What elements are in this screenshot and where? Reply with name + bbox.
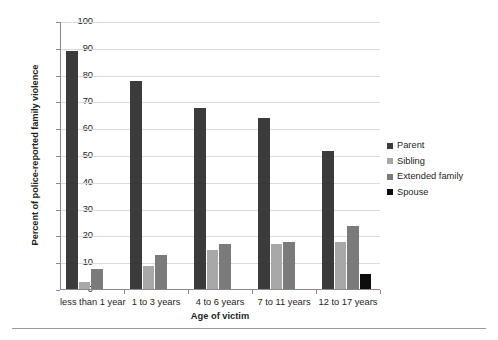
y-tick-mark: [56, 290, 60, 291]
legend-swatch-icon: [387, 174, 393, 180]
legend-item[interactable]: Extended family: [387, 169, 463, 185]
legend-label: Sibling: [397, 157, 425, 166]
legend-item[interactable]: Parent: [387, 138, 463, 154]
x-tick-label: 7 to 11 years: [252, 297, 316, 307]
x-tick-mark: [252, 290, 253, 294]
bottom-divider: [12, 328, 486, 329]
x-tick-mark: [124, 290, 125, 294]
plot-area: [60, 22, 380, 290]
legend-label: Spouse: [397, 188, 429, 197]
x-tick-mark: [380, 290, 381, 294]
x-tick-mark: [316, 290, 317, 294]
bar-chart-figure: Percent of police-reported family violen…: [0, 0, 498, 340]
x-tick-label: 1 to 3 years: [124, 297, 188, 307]
legend-swatch-icon: [387, 143, 393, 149]
legend-label: Parent: [397, 141, 424, 150]
x-tick-mark: [188, 290, 189, 294]
x-tick-label: 4 to 6 years: [188, 297, 252, 307]
legend-swatch-icon: [387, 158, 393, 164]
x-axis-title: Age of victim: [0, 311, 440, 321]
y-axis-title: Percent of police-reported family violen…: [30, 25, 40, 285]
chart-legend: ParentSiblingExtended familySpouse: [387, 138, 463, 200]
legend-label: Extended family: [397, 172, 463, 181]
legend-item[interactable]: Sibling: [387, 154, 463, 170]
x-tick-label: 12 to 17 years: [316, 297, 380, 307]
legend-item[interactable]: Spouse: [387, 185, 463, 201]
x-tick-label: less than 1 year: [60, 297, 124, 307]
legend-swatch-icon: [387, 189, 393, 195]
plot-frame: [60, 22, 380, 290]
